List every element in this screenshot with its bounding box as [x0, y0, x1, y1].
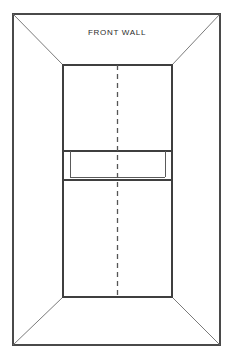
front-wall-face: [63, 65, 172, 297]
court-diagram-container: FRONT WALL: [0, 0, 234, 363]
court-perspective-svg: FRONT WALL: [0, 0, 234, 363]
front-wall-label: FRONT WALL: [88, 28, 146, 37]
